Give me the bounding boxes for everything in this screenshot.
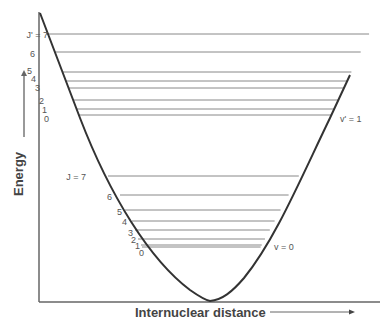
- lower-band-label: v = 0: [274, 242, 294, 252]
- upper-band-levels: [46, 34, 369, 115]
- lower-j-labels: J = 76543210: [66, 172, 144, 258]
- j-level-label: 5: [117, 207, 122, 217]
- x-axis-label: Internuclear distance: [135, 305, 266, 320]
- y-axis-label: Energy: [11, 151, 26, 196]
- j-level-label: 6: [107, 192, 112, 202]
- distance-arrow-icon: [349, 310, 355, 315]
- j-level-label: 0: [44, 114, 49, 124]
- j-level-label: 0: [139, 248, 144, 258]
- j-level-label: 4: [122, 217, 127, 227]
- j-level-label: J = 7: [66, 172, 86, 182]
- lower-band-levels: [108, 176, 299, 247]
- upper-band-label: v' = 1: [340, 114, 361, 124]
- j-level-label: J' = 7: [27, 30, 48, 40]
- energy-level-diagram: Energy Internuclear distance v' = 1 v = …: [0, 0, 391, 329]
- j-level-label: 6: [30, 49, 35, 59]
- upper-j-labels: J' = 76543210: [27, 30, 50, 124]
- j-level-label: 3: [35, 83, 40, 93]
- potential-curve: [40, 13, 350, 301]
